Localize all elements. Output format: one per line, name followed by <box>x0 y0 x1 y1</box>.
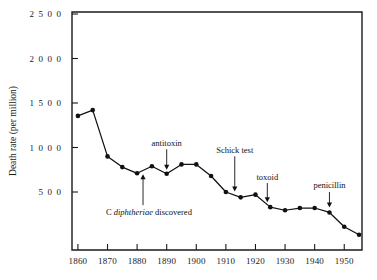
data-point <box>209 174 214 179</box>
y-tick-label-500: 5 0 0 <box>39 187 63 197</box>
annotation-label: Schick test <box>216 145 254 155</box>
y-tick-label-1500: 1 5 0 0 <box>30 98 62 108</box>
data-point <box>268 205 273 210</box>
x-tick-label-1920: 1920 <box>246 256 265 266</box>
data-point <box>105 154 110 159</box>
diphtheria-death-rate-chart: 5 0 01 0 0 01 5 0 02 0 0 02 5 0 0 186018… <box>0 0 377 280</box>
data-point <box>342 224 347 229</box>
y-tick-label-2000: 2 0 0 0 <box>30 54 62 64</box>
x-tick-label-1880: 1880 <box>128 256 147 266</box>
y-tick-label-2500: 2 5 0 0 <box>30 9 62 19</box>
data-point <box>76 114 81 119</box>
data-point <box>90 108 95 113</box>
chart-container: 5 0 01 0 0 01 5 0 02 0 0 02 5 0 0 186018… <box>0 0 377 280</box>
annotation-label: antitoxin <box>152 138 183 148</box>
x-tick-label-1900: 1900 <box>187 256 206 266</box>
data-point <box>120 165 125 170</box>
data-point <box>224 190 229 195</box>
data-point <box>357 232 362 237</box>
data-point <box>135 171 140 176</box>
data-point <box>179 162 184 167</box>
annotation-label: C diphtheriae discovered <box>106 207 193 217</box>
annotation-layer: C diphtheriae discoveredantitoxinSchick … <box>106 138 346 217</box>
data-point <box>238 195 243 200</box>
y-axis-title: Death rate (per million) <box>8 86 19 176</box>
data-point <box>327 210 332 215</box>
y-axis-ticks <box>72 14 78 192</box>
x-axis-ticks <box>78 244 344 250</box>
annotation-arrow-head <box>327 203 332 208</box>
series-data-points <box>76 108 362 237</box>
data-point <box>164 171 169 176</box>
annotation-arrow-head <box>265 197 270 202</box>
x-tick-label-1930: 1930 <box>276 256 295 266</box>
annotation-c-diphtheriae-discovered: C diphtheriae discovered <box>106 174 193 217</box>
data-point <box>283 208 288 213</box>
data-point <box>253 192 258 197</box>
data-point <box>194 162 199 167</box>
data-point <box>312 206 317 211</box>
x-tick-label-1940: 1940 <box>305 256 324 266</box>
data-point <box>150 164 155 169</box>
annotation-label: penicillin <box>313 180 346 190</box>
annotation-arrow-head <box>140 174 145 179</box>
x-tick-label-1860: 1860 <box>69 256 88 266</box>
y-axis-tick-labels: 5 0 01 0 0 01 5 0 02 0 0 02 5 0 0 <box>30 9 62 197</box>
x-tick-label-1910: 1910 <box>216 256 235 266</box>
x-tick-label-1950: 1950 <box>335 256 354 266</box>
annotation-label: toxoid <box>256 172 278 182</box>
x-tick-label-1870: 1870 <box>98 256 117 266</box>
annotation-arrow-head <box>232 187 237 192</box>
x-tick-label-1890: 1890 <box>157 256 176 266</box>
y-tick-label-1000: 1 0 0 0 <box>30 143 62 153</box>
annotation-arrow-head <box>164 165 169 170</box>
annotation-antitoxin: antitoxin <box>152 138 183 170</box>
annotation-penicillin: penicillin <box>313 180 346 207</box>
x-axis-tick-labels: 1860187018801890190019101920193019401950 <box>69 256 354 266</box>
data-point <box>298 206 303 211</box>
annotation-schick-test: Schick test <box>216 145 254 192</box>
